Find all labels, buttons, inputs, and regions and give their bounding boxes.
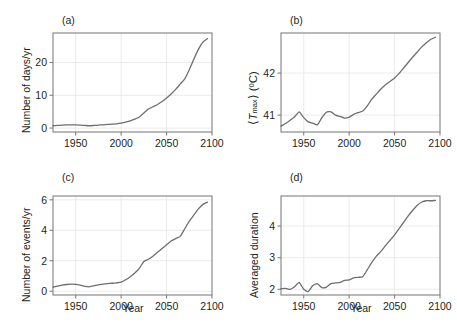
svg-text:2050: 2050	[155, 300, 179, 312]
svg-text:4: 4	[269, 220, 275, 232]
svg-text:2100: 2100	[428, 300, 452, 312]
data-series-line	[53, 39, 207, 126]
svg-text:0: 0	[41, 285, 47, 297]
panel-a-plot: 010201950200020502100	[0, 0, 215, 155]
svg-text:1950: 1950	[64, 137, 88, 149]
svg-text:6: 6	[41, 194, 47, 206]
data-series-line	[53, 202, 207, 287]
svg-text:2100: 2100	[200, 137, 224, 149]
panel-c-plot: 02461950200020502100	[0, 163, 215, 318]
svg-text:41: 41	[263, 109, 275, 121]
svg-text:42: 42	[263, 67, 275, 79]
svg-text:10: 10	[35, 89, 47, 101]
svg-text:2050: 2050	[383, 300, 407, 312]
svg-text:20: 20	[35, 56, 47, 68]
svg-text:4: 4	[41, 224, 47, 236]
svg-text:2050: 2050	[155, 137, 179, 149]
data-series-line	[281, 37, 435, 126]
svg-text:1950: 1950	[292, 300, 316, 312]
figure-container: (a) Number of days/yr 010201950200020502…	[0, 0, 457, 323]
svg-text:2000: 2000	[109, 137, 133, 149]
svg-text:0: 0	[41, 122, 47, 134]
svg-text:2000: 2000	[109, 300, 133, 312]
svg-text:2050: 2050	[383, 137, 407, 149]
svg-text:1950: 1950	[292, 137, 316, 149]
svg-text:3: 3	[269, 251, 275, 263]
panel-b-plot: 41421950200020502100	[228, 0, 443, 155]
svg-text:2100: 2100	[200, 300, 224, 312]
svg-text:2000: 2000	[337, 137, 361, 149]
data-series-line	[281, 200, 435, 291]
svg-text:1950: 1950	[64, 300, 88, 312]
svg-text:2: 2	[269, 283, 275, 295]
svg-text:2100: 2100	[428, 137, 452, 149]
svg-text:2: 2	[41, 255, 47, 267]
panel-d-plot: 2341950200020502100	[228, 163, 443, 318]
svg-text:2000: 2000	[337, 300, 361, 312]
